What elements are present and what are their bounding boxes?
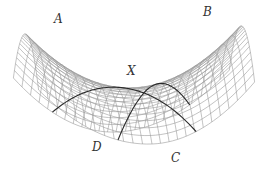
saddle-surface-mesh [0,0,267,182]
label-a: A [54,13,63,25]
label-x-saddle-point: X [127,65,136,77]
label-b: B [203,6,212,18]
mesh-lines-v [13,26,254,144]
label-d: D [92,141,102,153]
mesh-lines-u [13,26,254,144]
label-c: C [171,152,180,164]
